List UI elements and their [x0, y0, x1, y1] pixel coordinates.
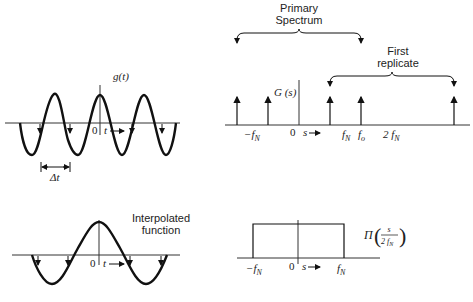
rect-function-label: Π ( s 2 fN ) — [363, 223, 406, 248]
first-replicate-brace: First replicate — [330, 45, 454, 86]
rect-tick-neg-fn: −fN — [246, 262, 262, 277]
rect-s-label: s — [302, 260, 306, 272]
spectrum-origin: 0 — [290, 126, 296, 138]
tick-neg-fn: −fN — [244, 128, 260, 143]
tick-2fn: 2 fN — [383, 128, 400, 143]
s-axis-label: s — [303, 126, 307, 138]
rect-origin: 0 — [289, 260, 295, 272]
tick-fn: fN — [342, 128, 351, 143]
delta-t-label: Δt — [49, 171, 60, 183]
G-of-s-label: G (s) — [274, 86, 297, 99]
rect-tick-fn: fN — [337, 262, 346, 277]
replicate-label-line2: replicate — [377, 57, 419, 69]
t-axis-label: t — [104, 124, 108, 136]
fraction-numerator: s — [387, 225, 390, 234]
primary-label-line2: Spectrum — [275, 14, 322, 26]
fraction-denominator: 2 fN — [381, 237, 394, 247]
panel-interpolated: Interpolated function 0 t — [12, 212, 190, 284]
interp-origin: 0 — [90, 257, 96, 269]
cosine-wave — [20, 94, 176, 155]
pi-symbol: Π — [363, 228, 374, 242]
sample-markers — [40, 124, 162, 133]
panel-spectrum: Primary Spectrum First replicate G (s) −… — [225, 2, 470, 143]
replicate-label-line1: First — [387, 45, 408, 57]
delta-t-dimension: Δt — [41, 162, 70, 183]
right-paren: ) — [399, 223, 406, 248]
interp-t-label: t — [103, 257, 107, 269]
primary-spectrum-brace: Primary Spectrum — [237, 2, 361, 43]
interpolated-label-line2: function — [142, 224, 181, 236]
origin-label: 0 — [92, 124, 98, 136]
g-of-t-label: g(t) — [113, 70, 129, 83]
tick-fo: fo — [358, 128, 365, 143]
spectral-impulses — [237, 97, 454, 125]
diagram-canvas: g(t) 0 t Δt Primary — [0, 0, 473, 302]
panel-rect-filter: −fN 0 s fN Π ( s 2 fN ) — [237, 220, 406, 277]
panel-time-signal: g(t) 0 t Δt — [5, 70, 180, 183]
primary-label-line1: Primary — [280, 2, 318, 14]
interpolated-label-line1: Interpolated — [132, 212, 190, 224]
